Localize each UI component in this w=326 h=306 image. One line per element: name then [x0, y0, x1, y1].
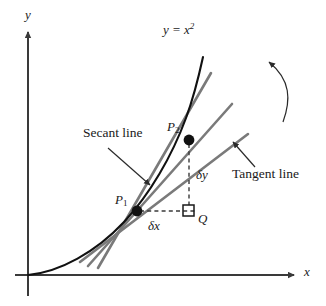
tangent-label-arrow [233, 142, 255, 167]
curve-equation-text: y = x [163, 22, 190, 37]
point-p1-dot [132, 206, 143, 217]
point-q-label: Q [198, 212, 207, 225]
secant-line-steep [98, 73, 211, 268]
point-p1-letter: P [115, 192, 123, 207]
delta-x-label: δx [148, 219, 160, 232]
diagram-canvas [0, 0, 326, 306]
point-p2-letter: P [167, 119, 175, 134]
rotation-arc-arrow [269, 62, 288, 122]
point-p1-subscript: 1 [123, 198, 128, 208]
point-p2-label: P2 [167, 120, 179, 135]
secant-line-label: Secant line [83, 126, 143, 140]
y-axis-label: y [25, 8, 31, 21]
x-axis-label: x [304, 265, 310, 278]
curve-equation-label: y = x2 [163, 22, 194, 36]
figure-container: y x y = x2 Secant line Tangent line P1 P… [0, 0, 326, 306]
curve-exponent: 2 [190, 21, 195, 31]
tangent-line-label: Tangent line [232, 167, 299, 181]
point-p2-dot [184, 135, 195, 146]
point-p1-label: P1 [115, 193, 127, 208]
secant-label-arrow [108, 148, 150, 185]
delta-y-label: δy [196, 168, 208, 181]
point-p2-subscript: 2 [175, 125, 180, 135]
